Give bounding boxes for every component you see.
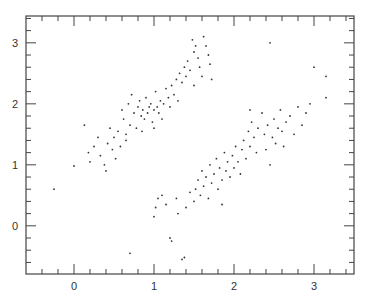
data-point xyxy=(120,146,122,148)
data-points xyxy=(53,36,327,260)
data-point xyxy=(153,127,155,129)
data-point xyxy=(280,109,282,111)
x-tick-label: 2 xyxy=(231,280,237,292)
data-point xyxy=(269,42,271,44)
data-point xyxy=(168,97,170,99)
data-point xyxy=(161,194,163,196)
data-point xyxy=(205,45,207,47)
data-point xyxy=(192,39,194,41)
data-point xyxy=(189,69,191,71)
data-point xyxy=(148,106,150,108)
data-point xyxy=(129,252,131,254)
data-point xyxy=(165,88,167,90)
data-point xyxy=(283,146,285,148)
data-point xyxy=(113,137,115,139)
data-point xyxy=(173,94,175,96)
data-point xyxy=(127,103,129,105)
data-point xyxy=(163,103,165,105)
data-point xyxy=(160,100,162,102)
data-point xyxy=(201,76,203,78)
data-point xyxy=(301,124,303,126)
data-point xyxy=(249,146,251,148)
data-point xyxy=(221,204,223,206)
data-point xyxy=(203,36,205,38)
data-point xyxy=(93,146,95,148)
data-point xyxy=(107,143,109,145)
data-point xyxy=(115,158,117,160)
data-point xyxy=(273,118,275,120)
x-tick-label: 3 xyxy=(311,280,317,292)
data-point xyxy=(136,127,138,129)
data-point xyxy=(199,66,201,68)
data-point xyxy=(225,170,227,172)
data-point xyxy=(158,112,160,114)
data-point xyxy=(157,198,159,200)
data-point xyxy=(185,76,187,78)
data-point xyxy=(53,188,55,190)
data-point xyxy=(313,66,315,68)
data-point xyxy=(195,188,197,190)
data-point xyxy=(141,130,143,132)
data-point xyxy=(193,51,195,53)
data-point xyxy=(267,124,269,126)
data-point xyxy=(140,115,142,117)
data-point xyxy=(200,194,202,196)
data-point xyxy=(112,149,114,151)
data-point xyxy=(245,158,247,160)
data-point xyxy=(297,106,299,108)
data-point xyxy=(125,133,127,135)
data-point xyxy=(147,112,149,114)
data-point xyxy=(100,155,102,157)
data-point xyxy=(89,161,91,163)
data-point xyxy=(305,112,307,114)
data-point xyxy=(131,94,133,96)
y-tick-label: 0 xyxy=(12,220,18,232)
data-point xyxy=(309,103,311,105)
data-point xyxy=(155,207,157,209)
data-point xyxy=(139,100,141,102)
data-point xyxy=(275,143,277,145)
data-point xyxy=(248,130,250,132)
y-tick-label: 3 xyxy=(12,37,18,49)
data-point xyxy=(237,161,239,163)
data-point xyxy=(171,85,173,87)
x-tick-label: 0 xyxy=(71,280,77,292)
data-point xyxy=(264,133,266,135)
data-point xyxy=(235,146,237,148)
data-point xyxy=(117,130,119,132)
data-point xyxy=(227,161,229,163)
data-point xyxy=(156,106,158,108)
data-point xyxy=(240,173,242,175)
data-point xyxy=(133,112,135,114)
data-point xyxy=(193,201,195,203)
data-point xyxy=(177,213,179,215)
data-point xyxy=(137,106,139,108)
data-point xyxy=(251,121,253,123)
data-point xyxy=(265,149,267,151)
data-point xyxy=(195,45,197,47)
data-point xyxy=(129,124,131,126)
data-point xyxy=(150,103,152,105)
data-point xyxy=(176,79,178,81)
data-point xyxy=(293,133,295,135)
data-point xyxy=(169,106,171,108)
data-point xyxy=(123,118,125,120)
data-point xyxy=(109,127,111,129)
data-point xyxy=(184,66,186,68)
data-point xyxy=(208,198,210,200)
y-tick-label: 1 xyxy=(12,159,18,171)
data-point xyxy=(104,164,106,166)
data-point xyxy=(201,170,203,172)
data-point xyxy=(249,109,251,111)
data-point xyxy=(253,137,255,139)
data-point xyxy=(197,57,199,59)
y-tick-label: 2 xyxy=(12,98,18,110)
data-point xyxy=(205,176,207,178)
data-point xyxy=(152,121,154,123)
data-point xyxy=(269,164,271,166)
data-point xyxy=(153,109,155,111)
data-point xyxy=(261,112,263,114)
data-point xyxy=(208,54,210,56)
data-point xyxy=(84,124,86,126)
data-point xyxy=(211,79,213,81)
